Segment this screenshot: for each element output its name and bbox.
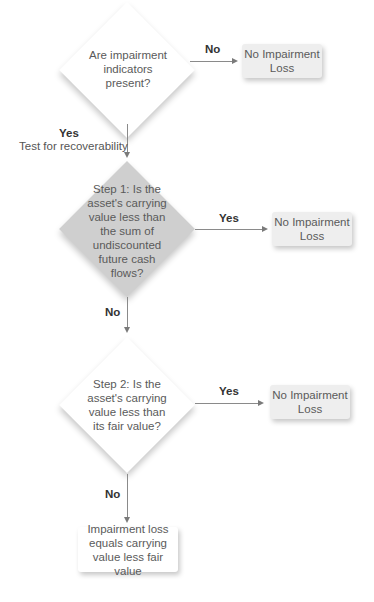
decision-2-text: Step 1: Is the asset's carrying value le… bbox=[82, 182, 172, 280]
connector-d2-yes bbox=[195, 229, 264, 230]
decision-3-text: Step 2: Is the asset's carrying value le… bbox=[82, 377, 172, 433]
outcome-2-text: No Impairment Loss bbox=[272, 215, 352, 243]
arrow-down-icon bbox=[124, 327, 130, 333]
arrow-down-icon bbox=[124, 152, 130, 158]
outcome-2-box: No Impairment Loss bbox=[272, 212, 352, 246]
connector-d3-yes bbox=[195, 403, 260, 404]
outcome-3-text: No Impairment Loss bbox=[270, 388, 350, 416]
decision-1-text: Are impairment indicators present? bbox=[87, 48, 169, 90]
outcome-4-box: Impairment loss equals carrying value le… bbox=[78, 527, 178, 572]
decision-3-yes-label: Yes bbox=[219, 385, 239, 397]
connector-d2-no bbox=[127, 297, 128, 329]
arrow-right-icon bbox=[232, 58, 238, 64]
outcome-3-box: No Impairment Loss bbox=[270, 385, 350, 419]
arrow-right-icon bbox=[262, 226, 268, 232]
decision-1-yes-sublabel: Test for recoverability bbox=[19, 140, 128, 152]
decision-2-no-label: No bbox=[105, 306, 120, 318]
decision-1-no-label: No bbox=[205, 43, 220, 55]
decision-2-yes-label: Yes bbox=[219, 212, 239, 224]
outcome-1-box: No Impairment Loss bbox=[242, 44, 322, 78]
arrow-right-icon bbox=[258, 400, 264, 406]
connector-d1-no bbox=[190, 61, 234, 62]
outcome-1-text: No Impairment Loss bbox=[242, 47, 322, 75]
connector-d3-no bbox=[127, 474, 128, 519]
decision-1-yes-label: Yes bbox=[59, 127, 79, 139]
decision-3-no-label: No bbox=[105, 488, 120, 500]
outcome-4-text: Impairment loss equals carrying value le… bbox=[78, 522, 178, 578]
